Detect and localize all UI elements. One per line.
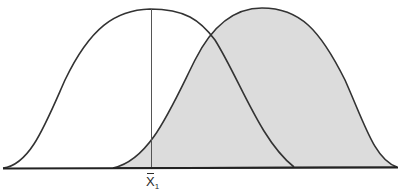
subscript: 1 (155, 182, 159, 191)
shaded-distribution-curve (113, 8, 397, 168)
baseline-axis (3, 168, 398, 169)
distribution-diagram (0, 0, 402, 193)
x-bar-symbol: X (146, 175, 155, 188)
mean-label: X1 (146, 175, 159, 191)
